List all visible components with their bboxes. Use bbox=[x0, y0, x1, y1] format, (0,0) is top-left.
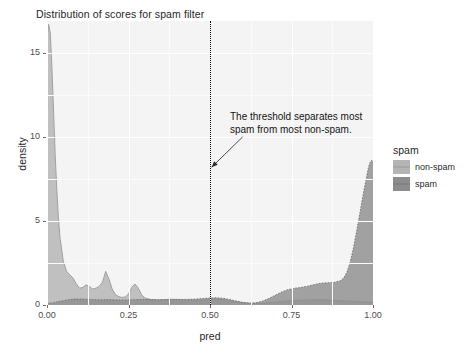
annotation-line-1: The threshold separates most bbox=[230, 110, 362, 123]
gridline-vertical-minor bbox=[332, 21, 333, 305]
legend-swatch-icon bbox=[393, 160, 410, 174]
x-axis-tick-label: 0.75 bbox=[272, 310, 312, 320]
x-axis-tick-mark bbox=[47, 305, 48, 308]
threshold-vertical-line bbox=[210, 21, 211, 305]
x-axis-tick-mark bbox=[373, 305, 374, 308]
x-axis-tick-mark bbox=[292, 305, 293, 308]
y-axis-tick-label: 15 bbox=[12, 47, 40, 57]
x-axis-tick-label: 0.00 bbox=[27, 310, 67, 320]
x-axis-tick-label: 1.00 bbox=[353, 310, 393, 320]
y-axis-tick-label: 0 bbox=[12, 299, 40, 309]
y-axis-tick-mark bbox=[43, 221, 46, 222]
legend-title: spam bbox=[393, 144, 419, 156]
legend-item-spam[interactable]: spam bbox=[393, 177, 437, 191]
gridline-vertical-minor bbox=[251, 21, 252, 305]
x-axis-tick-mark bbox=[210, 305, 211, 308]
y-axis-tick-mark bbox=[43, 137, 46, 138]
y-axis-tick-mark bbox=[43, 305, 46, 306]
density-chart: Distribution of scores for spam filter 0… bbox=[0, 0, 467, 360]
plot-panel bbox=[47, 21, 373, 305]
gridline-vertical bbox=[129, 21, 130, 305]
x-axis-label: pred bbox=[47, 330, 373, 342]
gridline-vertical-minor bbox=[88, 21, 89, 305]
annotation-line-2: spam from most non-spam. bbox=[230, 123, 352, 136]
y-axis-tick-mark bbox=[43, 53, 46, 54]
legend-swatch-icon bbox=[393, 177, 410, 191]
legend-item-non-spam[interactable]: non-spam bbox=[393, 160, 455, 174]
y-axis-label: density bbox=[16, 124, 28, 184]
legend-item-label: non-spam bbox=[415, 162, 455, 172]
gridline-vertical bbox=[292, 21, 293, 305]
legend-item-label: spam bbox=[415, 179, 437, 189]
y-axis-tick-label: 5 bbox=[12, 215, 40, 225]
x-axis-tick-mark bbox=[129, 305, 130, 308]
x-axis-tick-label: 0.50 bbox=[190, 310, 230, 320]
gridline-vertical bbox=[47, 21, 48, 305]
gridline-vertical-minor bbox=[169, 21, 170, 305]
x-axis-tick-label: 0.25 bbox=[109, 310, 149, 320]
chart-title: Distribution of scores for spam filter bbox=[36, 8, 204, 20]
